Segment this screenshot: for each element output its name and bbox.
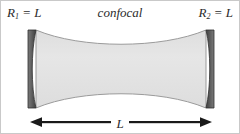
- right-mirror-radius-label: R2 = L: [199, 6, 233, 19]
- left-mirror: [28, 30, 36, 108]
- confocal-resonator-figure: R1 = L confocal R2 = L L: [0, 0, 240, 134]
- beam-envelope: [36, 30, 206, 108]
- diagram-canvas: [1, 1, 240, 134]
- right-mirror: [206, 30, 214, 108]
- cavity-length-label: L: [1, 117, 239, 130]
